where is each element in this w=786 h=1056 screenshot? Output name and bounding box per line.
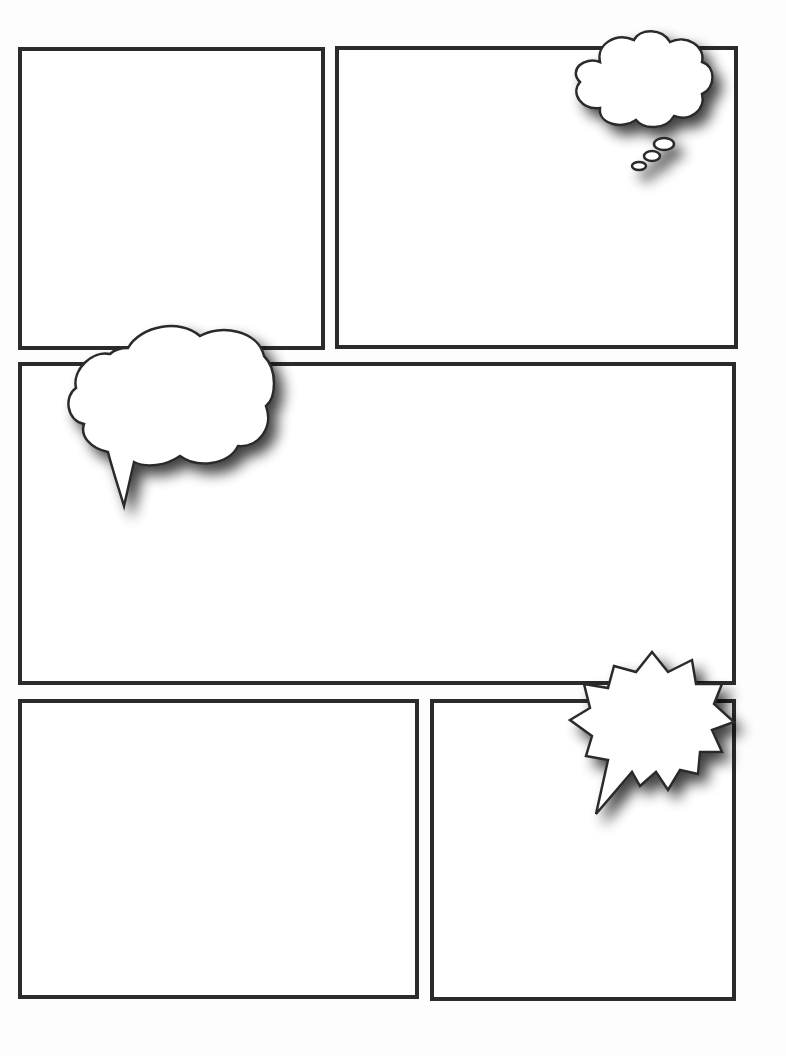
thought-dot-medium	[644, 151, 660, 161]
panel-1[interactable]	[18, 47, 325, 350]
thought-dot-small	[632, 162, 646, 170]
comic-page	[0, 0, 786, 1056]
thought-dot-large	[654, 138, 674, 150]
panel-4[interactable]	[18, 699, 419, 999]
